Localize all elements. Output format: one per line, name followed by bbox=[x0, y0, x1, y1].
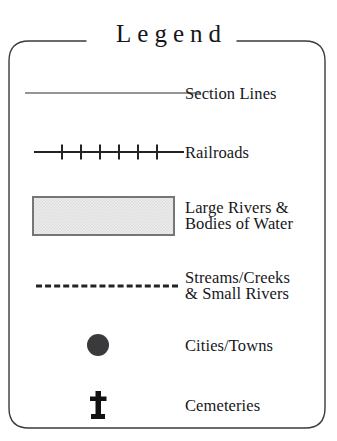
cemeteries-label-line-1: Cemeteries bbox=[185, 397, 318, 414]
railroads-label-line-1: Railroads bbox=[185, 144, 318, 161]
railroad-line-icon bbox=[34, 142, 184, 162]
large-rivers-label: Large Rivers & Bodies of Water bbox=[183, 200, 318, 233]
map-legend-panel: Legend Section Lines Railroads bbox=[0, 0, 337, 441]
solid-line-icon bbox=[25, 93, 200, 94]
cities-label-line-1: Cities/Towns bbox=[185, 337, 318, 354]
cities-label: Cities/Towns bbox=[183, 337, 318, 354]
legend-entry-section-lines: Section Lines bbox=[18, 80, 318, 106]
legend-entry-large-rivers: Large Rivers & Bodies of Water bbox=[18, 193, 318, 239]
streams-label: Streams/Creeks & Small Rivers bbox=[183, 270, 318, 303]
legend-entry-streams: Streams/Creeks & Small Rivers bbox=[18, 267, 318, 305]
streams-label-line-2: & Small Rivers bbox=[185, 286, 318, 303]
city-dot-icon bbox=[87, 334, 109, 356]
dashed-line-icon bbox=[36, 285, 178, 288]
water-body-swatch-icon bbox=[32, 196, 175, 236]
legend-entry-cemeteries: Cemeteries bbox=[18, 388, 318, 422]
large-rivers-label-line-2: Bodies of Water bbox=[185, 216, 318, 233]
section-lines-label-line-1: Section Lines bbox=[185, 85, 318, 102]
section-lines-label: Section Lines bbox=[183, 85, 318, 102]
cemeteries-label: Cemeteries bbox=[183, 397, 318, 414]
railroads-label: Railroads bbox=[183, 144, 318, 161]
legend-entry-railroads: Railroads bbox=[18, 139, 318, 165]
legend-entry-cities: Cities/Towns bbox=[18, 327, 318, 363]
cemetery-cross-icon bbox=[88, 391, 108, 419]
legend-title: Legend bbox=[0, 19, 337, 49]
